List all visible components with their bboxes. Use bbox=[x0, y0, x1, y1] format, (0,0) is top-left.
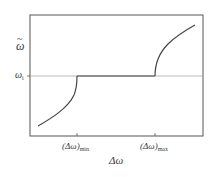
x-tick-max-subscript: max bbox=[158, 146, 168, 152]
x-tick-min-subscript: min bbox=[80, 146, 89, 152]
y-reference-label-text: ω bbox=[15, 69, 22, 80]
x-tick-min-text: (Δω) bbox=[62, 141, 80, 151]
curve-left-branch bbox=[38, 76, 77, 126]
tilde-accent: ~ bbox=[17, 34, 22, 44]
y-reference-label: ωi bbox=[15, 70, 24, 81]
x-tick-label-min: (Δω)min bbox=[62, 142, 89, 152]
x-tick-max-text: (Δω) bbox=[140, 141, 158, 151]
curve-right-branch bbox=[155, 25, 195, 76]
y-reference-subscript: i bbox=[22, 75, 24, 81]
y-axis-label: ~ ω bbox=[16, 40, 24, 52]
x-axis-label: Δω bbox=[109, 155, 123, 166]
diagram-canvas bbox=[0, 0, 213, 177]
x-tick-label-max: (Δω)max bbox=[140, 142, 168, 152]
